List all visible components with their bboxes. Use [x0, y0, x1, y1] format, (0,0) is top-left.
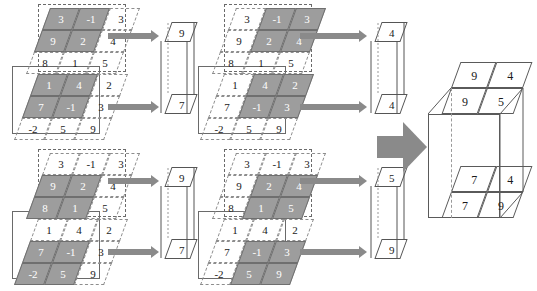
stage-4-prism-edges — [370, 167, 416, 267]
stage-2-front-matrix: 3-13924815 — [212, 8, 302, 74]
stage-4-back-value-2-2: 9 — [264, 263, 294, 285]
stage-3-front-value-2-0: 8 — [30, 197, 60, 219]
arrow-stage2-back — [300, 104, 360, 110]
stage-4-back-value-0-1: 4 — [250, 219, 280, 241]
stage-4-back-matrix: 1427-13-259 — [200, 219, 290, 285]
stage-2-back-value-1-1: -1 — [242, 96, 272, 118]
stage-4-back-value-2-1: 5 — [234, 263, 264, 285]
arrow-stage1-back — [108, 104, 152, 110]
cube-bottom-1-1: 9 — [483, 193, 519, 219]
stage-1-front-value-1-0: 9 — [38, 30, 68, 52]
stage-1-front-value-0-1: -1 — [76, 8, 106, 30]
stage-3-front-value-2-2: 5 — [90, 197, 120, 219]
cube-hidden-edge — [451, 88, 452, 218]
stage-2-front-value-2-0: 8 — [216, 52, 246, 74]
cube-bottom-0-1: 4 — [492, 167, 528, 193]
stage-3-back-matrix: 1427-13-259 — [14, 219, 104, 285]
stage-2-back-value-1-0: 7 — [212, 96, 242, 118]
stage-4-back-value-0-0: 1 — [220, 219, 250, 241]
stage-1-back-value-2-2: 9 — [78, 118, 108, 140]
stage-1-back-value-0-0: 1 — [34, 74, 64, 96]
stage-4-back-value-1-0: 7 — [212, 241, 242, 263]
arrow-stage3-front — [108, 178, 152, 184]
stage-1-front-matrix: 3-13924815 — [26, 8, 116, 74]
stage-2-back-value-0-2: 2 — [280, 74, 310, 96]
stage-1-back-value-2-0: -2 — [18, 118, 48, 140]
stage-2-front-value-0-1: -1 — [262, 8, 292, 30]
stage-4-front-value-1-1: 2 — [254, 175, 284, 197]
stage-3-front-value-0-0: 3 — [46, 153, 76, 175]
stage-2-back-value-1-2: 3 — [272, 96, 302, 118]
stage-2-prism-edges — [370, 22, 416, 122]
stage-4-back-value-2-0: -2 — [204, 263, 234, 285]
stage-1-front-value-2-0: 8 — [30, 52, 60, 74]
stage-4-front-matrix: 3-13924815 — [212, 153, 302, 219]
stage-1-back-value-0-1: 4 — [64, 74, 94, 96]
stage-2-back-value-2-2: 9 — [264, 118, 294, 140]
stage-1-front-value-0-2: 3 — [106, 8, 136, 30]
cube-top-0-1: 4 — [492, 63, 528, 89]
stage-3-front-value-1-1: 2 — [68, 175, 98, 197]
final-pooled-volume: 9 4 9 5 7 4 7 9 — [428, 62, 524, 247]
arrow-stage3-back — [108, 249, 152, 255]
stage-1-front-value-2-2: 5 — [90, 52, 120, 74]
stage-4-front-value-0-2: 3 — [292, 153, 322, 175]
stage-1-back-matrix: 1427-13-259 — [14, 74, 104, 140]
stage-1-back-value-1-0: 7 — [26, 96, 56, 118]
stage-1-back-value-2-1: 5 — [48, 118, 78, 140]
stage-2-front-value-0-2: 3 — [292, 8, 322, 30]
stage-4-back-value-1-1: -1 — [242, 241, 272, 263]
stage-4-front-value-1-0: 9 — [224, 175, 254, 197]
stage-2-back-value-0-0: 1 — [220, 74, 250, 96]
stage-4-front-value-0-1: -1 — [262, 153, 292, 175]
stage-4-front-value-0-0: 3 — [232, 153, 262, 175]
stage-2-front-value-0-0: 3 — [232, 8, 262, 30]
stage-3-back-value-0-0: 1 — [34, 219, 64, 241]
arrow-stage1-front — [108, 33, 152, 39]
stage-3-front-matrix: 3-13924815 — [26, 153, 116, 219]
stage-2-front-value-2-2: 5 — [276, 52, 306, 74]
stage-4-front-value-2-0: 8 — [216, 197, 246, 219]
stage-3-back-value-0-2: 2 — [94, 219, 124, 241]
stage-3-front-value-2-1: 1 — [60, 197, 90, 219]
stage-3-back-value-2-1: 5 — [48, 263, 78, 285]
stage-2-back-value-2-0: -2 — [204, 118, 234, 140]
stage-3-back-value-2-2: 9 — [78, 263, 108, 285]
stage-1-front-value-1-1: 2 — [68, 30, 98, 52]
stage-2-back-value-2-1: 5 — [234, 118, 264, 140]
stage-1-back-value-0-2: 2 — [94, 74, 124, 96]
stage-3-front-value-0-2: 3 — [106, 153, 136, 175]
arrow-stage4-back — [300, 249, 360, 255]
stage-3-back-value-0-1: 4 — [64, 219, 94, 241]
stage-3-front-value-0-1: -1 — [76, 153, 106, 175]
stage-4-back-value-0-2: 2 — [280, 219, 310, 241]
stage-2-front-value-1-1: 2 — [254, 30, 284, 52]
arrow-stage2-front — [300, 33, 360, 39]
stage-4-back-value-1-2: 3 — [272, 241, 302, 263]
stage-3-back-value-1-1: -1 — [56, 241, 86, 263]
result-arrow-icon — [377, 122, 427, 172]
stage-4-front-value-2-2: 5 — [276, 197, 306, 219]
arrow-stage4-front — [300, 178, 360, 184]
stage-2-front-value-2-1: 1 — [246, 52, 276, 74]
stage-3-back-value-1-0: 7 — [26, 241, 56, 263]
stage-1-back-value-1-1: -1 — [56, 96, 86, 118]
stage-2-front-value-1-0: 9 — [224, 30, 254, 52]
stage-4-front-value-2-1: 1 — [246, 197, 276, 219]
stage-2-back-matrix: 1427-13-259 — [200, 74, 290, 140]
stage-1-front-value-2-1: 1 — [60, 52, 90, 74]
stage-2-back-value-0-1: 4 — [250, 74, 280, 96]
stage-3-front-value-1-0: 9 — [38, 175, 68, 197]
stage-3-back-value-2-0: -2 — [18, 263, 48, 285]
stage-1-front-value-0-0: 3 — [46, 8, 76, 30]
cube-top-1-1: 5 — [483, 89, 519, 115]
